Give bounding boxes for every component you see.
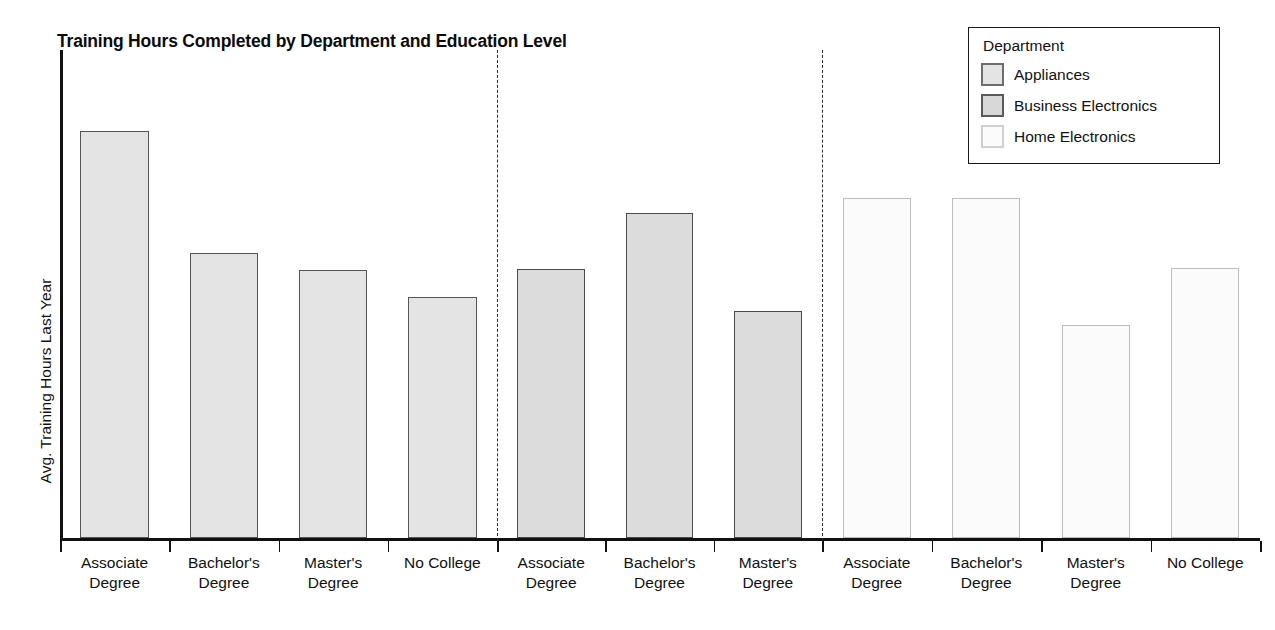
x-axis-tick-label-line2: Degree [1041, 573, 1151, 593]
x-axis-tick-label-line1: Master's [304, 554, 362, 571]
legend-swatch-icon [981, 63, 1004, 86]
x-axis-tick-label: AssociateDegree [60, 553, 169, 593]
x-axis-tick [60, 541, 62, 552]
x-axis-tick-label-line1: Bachelor's [188, 554, 260, 571]
x-axis-tick [932, 541, 934, 552]
x-axis-tick [497, 541, 499, 552]
x-axis-tick-label-line2: Degree [605, 573, 713, 593]
bar [734, 311, 802, 538]
group-separator-1 [497, 50, 498, 541]
page-title: Training Hours Completed by Department a… [57, 31, 567, 52]
x-axis-tick-label: Master'sDegree [279, 553, 388, 593]
x-axis-tick-label-line1: No College [1167, 554, 1244, 571]
x-axis-tick-label-line1: No College [404, 554, 481, 571]
x-axis-tick [1260, 541, 1262, 552]
x-axis-tick-label-line1: Bachelor's [624, 554, 696, 571]
x-axis-tick-label-line1: Associate [518, 554, 585, 571]
x-axis-tick-label-line1: Associate [843, 554, 910, 571]
legend-item-label: Home Electronics [1014, 128, 1135, 146]
legend-title: Department [983, 37, 1207, 55]
x-axis-tick-label-line2: Degree [497, 573, 605, 593]
bar [626, 213, 694, 538]
legend-item-home-electronics: Home Electronics [981, 121, 1207, 152]
bar [408, 297, 476, 538]
x-axis-tick-label: No College [388, 553, 497, 573]
x-axis-tick-label-line2: Degree [60, 573, 169, 593]
x-axis-tick [714, 541, 716, 552]
chart-figure: Training Hours Completed by Department a… [0, 0, 1275, 630]
x-axis-line [60, 538, 1260, 541]
bar [1062, 325, 1130, 538]
x-axis-tick-label-line2: Degree [822, 573, 932, 593]
x-axis-tick [388, 541, 390, 552]
x-axis-tick-label: AssociateDegree [822, 553, 932, 593]
x-axis-tick [169, 541, 171, 552]
x-axis-tick-label-line2: Degree [169, 573, 278, 593]
legend-item-appliances: Appliances [981, 59, 1207, 90]
x-axis-tick-label-line2: Degree [279, 573, 388, 593]
y-axis-label: Avg. Training Hours Last Year [37, 231, 55, 531]
group-separator-2 [822, 50, 823, 541]
legend: Department AppliancesBusiness Electronic… [968, 27, 1220, 164]
x-axis-tick [1041, 541, 1043, 552]
x-axis-tick-label: AssociateDegree [497, 553, 605, 593]
x-axis-tick-label-line1: Master's [739, 554, 797, 571]
x-axis-tick-label-line2: Degree [714, 573, 822, 593]
x-axis-tick [1151, 541, 1153, 552]
legend-swatch-icon [981, 125, 1004, 148]
legend-swatch-icon [981, 94, 1004, 117]
x-axis-tick-label-line2: Degree [932, 573, 1042, 593]
bar [190, 253, 258, 538]
legend-item-business-electronics: Business Electronics [981, 90, 1207, 121]
legend-item-label: Business Electronics [1014, 97, 1157, 115]
legend-rows: AppliancesBusiness ElectronicsHome Elect… [981, 59, 1207, 152]
bar [80, 131, 148, 538]
x-axis-tick-label-line1: Master's [1067, 554, 1125, 571]
bar [299, 270, 367, 538]
bar [952, 198, 1020, 538]
x-axis-tick-label-line1: Associate [81, 554, 148, 571]
x-axis-tick-label: No College [1151, 553, 1261, 573]
x-axis-tick-label-line1: Bachelor's [950, 554, 1022, 571]
x-axis-tick-label: Bachelor'sDegree [169, 553, 278, 593]
legend-item-label: Appliances [1014, 66, 1090, 84]
x-axis-tick [822, 541, 824, 552]
x-axis-tick-label: Master'sDegree [1041, 553, 1151, 593]
x-axis-tick [605, 541, 607, 552]
x-axis-tick-label: Bachelor'sDegree [932, 553, 1042, 593]
x-axis-tick-label: Master'sDegree [714, 553, 822, 593]
bar [517, 269, 585, 538]
x-axis-tick-label: Bachelor'sDegree [605, 553, 713, 593]
x-axis-tick [279, 541, 281, 552]
bar [1171, 268, 1239, 538]
bar [843, 198, 911, 538]
